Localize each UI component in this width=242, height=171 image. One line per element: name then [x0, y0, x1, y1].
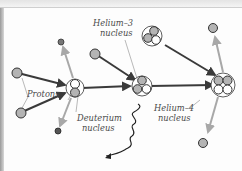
proton-in-1	[12, 68, 22, 78]
neutrino-out	[55, 128, 61, 134]
helium4-label-line1: Helium–4	[153, 103, 194, 113]
proton-out-2	[199, 139, 208, 148]
helium3-label-line2: nucleus	[100, 28, 133, 38]
helium4-label-line2: nucleus	[158, 113, 191, 123]
helium3-nucleus-a	[142, 26, 162, 46]
deuterium-label-line2: nucleus	[82, 123, 115, 133]
deuterium-label-line1: Deuterium	[76, 113, 122, 123]
proton-out-1	[209, 24, 218, 33]
diagram-frame: Protons Deuterium nucleus Helium–3 nucle…	[0, 0, 242, 171]
helium3-label-line1: Helium–3	[92, 18, 133, 28]
protons-label: Protons	[26, 89, 59, 99]
proton-in-3	[90, 49, 100, 59]
positron-out	[58, 39, 64, 45]
reaction-arrows	[18, 45, 215, 112]
helium4-nucleus	[211, 73, 235, 97]
helium3-nucleus-b	[132, 76, 152, 96]
gamma-arrowhead	[105, 153, 111, 159]
fusion-diagram: Protons Deuterium nucleus Helium–3 nucle…	[0, 0, 242, 171]
deuterium-nucleus	[66, 79, 84, 97]
proton-in-2	[16, 108, 26, 118]
